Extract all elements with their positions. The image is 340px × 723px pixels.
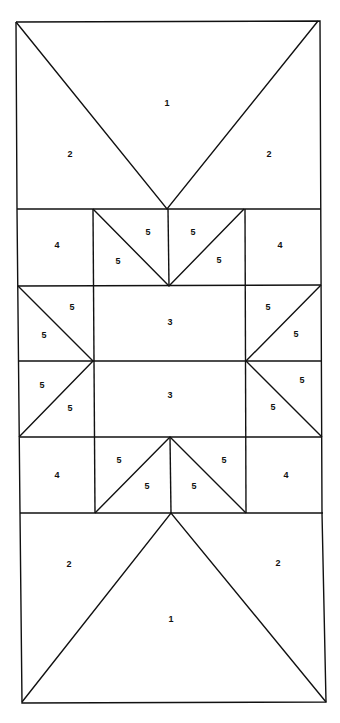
piece-label-r4-4-right: 4: [283, 470, 288, 480]
piece-label-r3-3: 3: [167, 390, 172, 400]
piece-label-r2-5-b: 5: [41, 330, 46, 340]
piece-label-top-2-right: 2: [266, 149, 271, 159]
piece-label-r2-5-d: 5: [293, 329, 298, 339]
piece-label-r1-5-d: 5: [216, 255, 221, 265]
grid-lines: [17, 209, 323, 513]
piece-label-r3-5-d: 5: [270, 402, 275, 412]
quilt-diagram: 1224555545535555355455554221: [0, 0, 340, 723]
piece-label-r1-4-right: 4: [277, 240, 282, 250]
piece-label-bot-2-left: 2: [66, 559, 71, 569]
piece-label-r3-5-a: 5: [39, 380, 44, 390]
piece-label-bot-2-right: 2: [275, 558, 280, 568]
piece-label-r1-5-a: 5: [145, 227, 150, 237]
piece-label-r4-5-a: 5: [116, 455, 121, 465]
piece-label-r4-5-d: 5: [191, 481, 196, 491]
piece-label-r3-5-c: 5: [299, 375, 304, 385]
piece-label-bot-1: 1: [168, 614, 173, 624]
piece-label-top-1: 1: [164, 98, 169, 108]
piece-label-r1-5-b: 5: [115, 256, 120, 266]
piece-label-r2-5-c: 5: [265, 302, 270, 312]
piece-label-r4-5-b: 5: [144, 481, 149, 491]
piece-label-r2-5-a: 5: [69, 302, 74, 312]
piece-label-r1-4-left: 4: [54, 240, 59, 250]
outline: [16, 21, 326, 703]
piece-label-r2-3: 3: [167, 317, 172, 327]
piece-label-r4-5-c: 5: [221, 455, 226, 465]
piece-label-r3-5-b: 5: [67, 403, 72, 413]
piece-label-top-2-left: 2: [67, 149, 72, 159]
piece-label-r1-5-c: 5: [190, 227, 195, 237]
piece-label-r4-4-left: 4: [54, 470, 59, 480]
